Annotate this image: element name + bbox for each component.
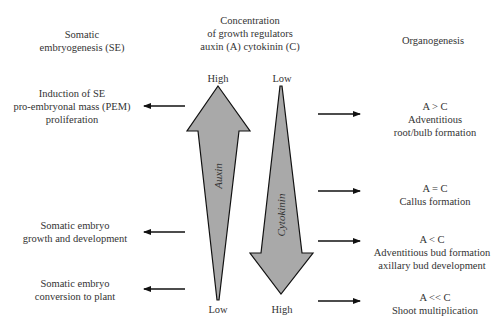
left-item-3-line-1: Somatic embryo <box>10 277 140 290</box>
left-item-1-line-2: pro-embryonal mass (PEM) <box>0 100 144 113</box>
right-item-2-line-2: Callus formation <box>372 195 498 208</box>
header-left-line-2: embryogenesis (SE) <box>22 41 142 54</box>
right-item-bud: A < C Adventitious bud formation axillar… <box>366 233 498 272</box>
left-item-2-line-2: growth and development <box>10 232 140 245</box>
right-item-shoot: A << C Shoot multiplication <box>372 291 498 317</box>
header-right-line-1: Organogenesis <box>388 34 478 47</box>
auxin-top-label: High <box>198 72 238 85</box>
right-item-2-line-1: A = C <box>372 182 498 195</box>
header-left-line-1: Somatic <box>22 28 142 41</box>
right-item-1-line-1: A > C <box>372 100 498 113</box>
right-item-callus: A = C Callus formation <box>372 182 498 208</box>
right-item-3-line-2: Adventitious bud formation <box>366 246 498 259</box>
left-item-3-line-2: conversion to plant <box>10 290 140 303</box>
header-center-line-1: Concentration <box>180 14 320 27</box>
auxin-arrow-shape <box>187 86 250 300</box>
auxin-label: Auxin <box>212 163 224 190</box>
cytokinin-bottom-label: High <box>262 303 302 316</box>
header-organogenesis: Organogenesis <box>388 34 478 47</box>
cytokinin-label: Cytokinin <box>275 193 287 236</box>
left-item-conversion: Somatic embryo conversion to plant <box>10 277 140 303</box>
right-item-root-bulb: A > C Adventitious root/bulb formation <box>372 100 498 139</box>
cytokinin-arrow-shape <box>250 86 313 294</box>
right-item-1-line-3: root/bulb formation <box>372 126 498 139</box>
header-concentration: Concentration of growth regulators auxin… <box>180 14 320 53</box>
right-item-3-line-1: A < C <box>366 233 498 246</box>
left-item-1-line-1: Induction of SE <box>0 87 144 100</box>
left-item-induction: Induction of SE pro-embryonal mass (PEM)… <box>0 87 144 126</box>
right-item-1-line-2: Adventitious <box>372 113 498 126</box>
left-item-1-line-3: proliferation <box>0 113 144 126</box>
left-item-growth: Somatic embryo growth and development <box>10 219 140 245</box>
header-somatic-embryogenesis: Somatic embryogenesis (SE) <box>22 28 142 54</box>
cytokinin-top-label: Low <box>262 72 302 85</box>
right-item-4-line-2: Shoot multiplication <box>372 304 498 317</box>
header-center-line-2: of growth regulators <box>180 27 320 40</box>
header-center-line-3: auxin (A) cytokinin (C) <box>180 40 320 53</box>
right-item-3-line-3: axillary bud development <box>366 259 498 272</box>
auxin-bottom-label: Low <box>198 303 238 316</box>
left-item-2-line-1: Somatic embryo <box>10 219 140 232</box>
right-item-4-line-1: A << C <box>372 291 498 304</box>
